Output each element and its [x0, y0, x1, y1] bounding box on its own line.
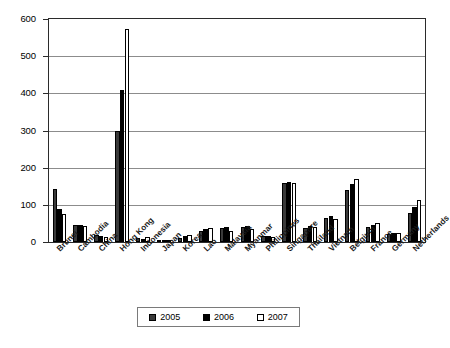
chart-legend: 2005 2006 2007 [137, 307, 300, 327]
legend-label-2006: 2006 [214, 313, 234, 322]
legend-item-2006[interactable]: 2006 [203, 313, 234, 322]
x-tick-label: Lao [202, 237, 219, 254]
x-tick-label: Korea [181, 231, 204, 254]
x-tick-label: Netherlands [411, 214, 450, 254]
legend-item-2007[interactable]: 2007 [257, 313, 288, 322]
legend-label-2005: 2005 [160, 313, 180, 322]
x-tick-label: Brunei [55, 229, 80, 254]
legend-item-2005[interactable]: 2005 [149, 313, 180, 322]
legend-swatch-2007-icon [257, 314, 264, 321]
legend-label-2007: 2007 [268, 313, 288, 322]
legend-swatch-2005-icon [149, 314, 156, 321]
legend-swatch-2006-icon [203, 314, 210, 321]
